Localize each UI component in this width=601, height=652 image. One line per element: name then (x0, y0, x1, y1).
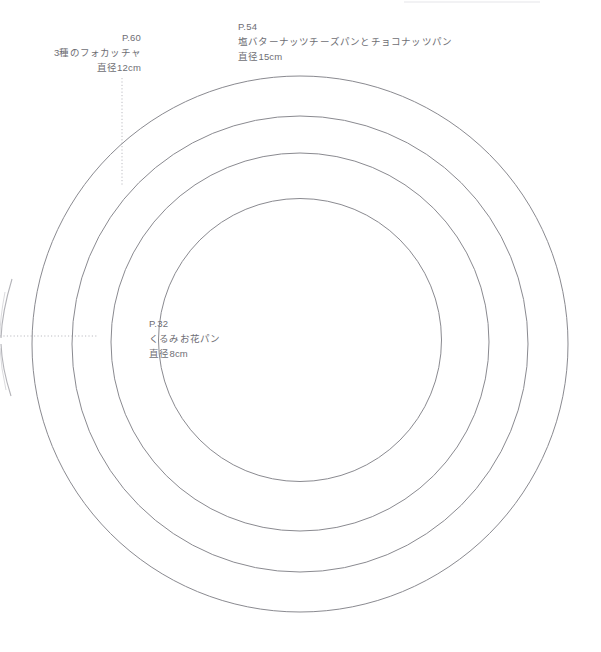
page-root: P.60 3種のフォカッチャ 直径12cm P.54 塩バターナッツチーズパンと… (0, 0, 601, 652)
circle-outer-15cm (32, 76, 568, 612)
label-p32: P.32 くるみお花パン 直径8cm (149, 316, 220, 361)
label-p54-name: 塩バターナッツチーズパンとチョコナッツパン (238, 34, 452, 49)
label-p60-name: 3種のフォカッチャ (0, 45, 141, 60)
label-p32-page: P.32 (149, 316, 220, 331)
label-p54-page: P.54 (238, 19, 452, 34)
label-p60: P.60 3種のフォカッチャ 直径12cm (0, 30, 141, 75)
circle-second-12cm (72, 116, 528, 572)
label-p60-diameter: 直径12cm (0, 60, 141, 75)
label-p32-diameter: 直径8cm (149, 346, 220, 361)
label-p60-page: P.60 (0, 30, 141, 45)
concentric-circles-diagram (0, 0, 601, 652)
label-p32-name: くるみお花パン (149, 331, 220, 346)
clipped-left-arc-fragments (0, 279, 12, 396)
label-p54-diameter: 直径15cm (238, 49, 452, 64)
label-p54: P.54 塩バターナッツチーズパンとチョコナッツパン 直径15cm (238, 19, 452, 64)
